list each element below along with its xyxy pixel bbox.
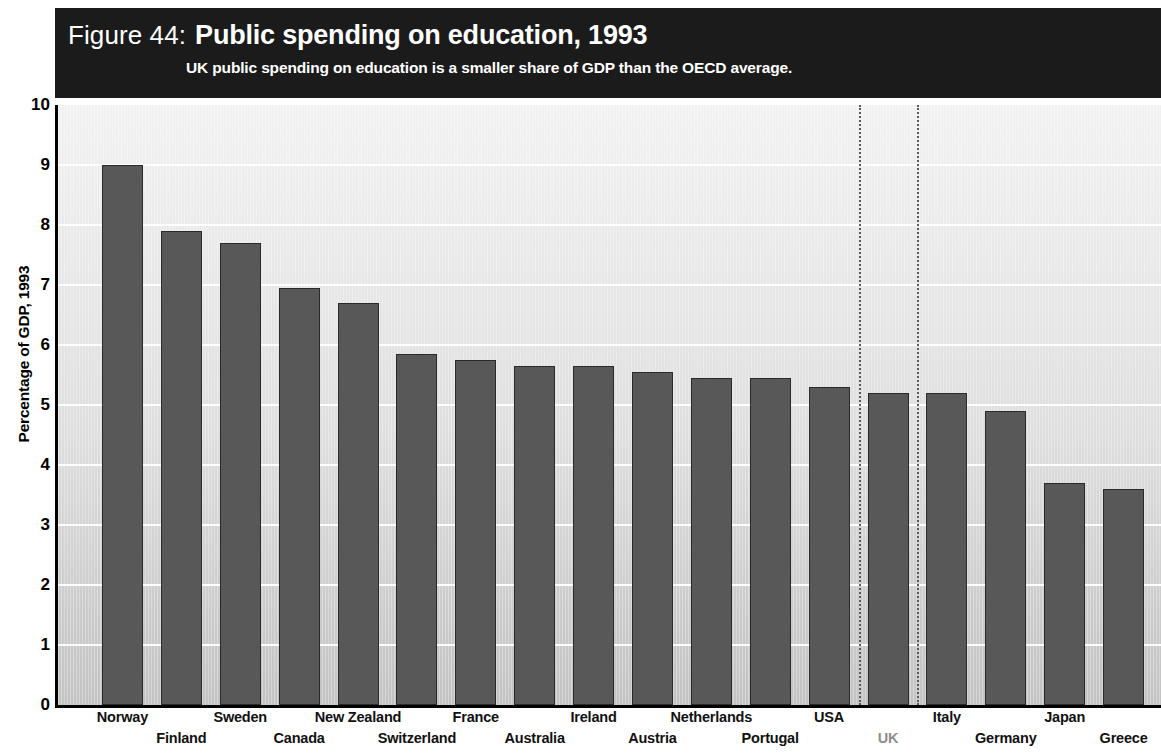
uk-marker-line-left: [859, 105, 861, 705]
bar-switzerland[interactable]: [396, 354, 437, 705]
x-tick-label-italy: Italy: [933, 709, 961, 725]
bar-japan[interactable]: [1044, 483, 1085, 705]
bar-italy[interactable]: [926, 393, 967, 705]
y-tick-label: 8: [4, 215, 50, 235]
figure-container: Figure 44:Public spending on education, …: [0, 0, 1161, 753]
gridline: [58, 164, 1161, 166]
x-tick-label-uk: UK: [878, 730, 899, 746]
x-tick-label-usa: USA: [814, 709, 844, 725]
bar-netherlands[interactable]: [691, 378, 732, 705]
x-tick-label-new-zealand: New Zealand: [315, 709, 401, 725]
bar-usa[interactable]: [809, 387, 850, 705]
x-tick-label-japan: Japan: [1044, 709, 1085, 725]
bar-portugal[interactable]: [750, 378, 791, 705]
x-tick-label-austria: Austria: [628, 730, 677, 746]
bar-uk[interactable]: [868, 393, 909, 705]
x-tick-label-greece: Greece: [1100, 730, 1148, 746]
x-tick-label-canada: Canada: [274, 730, 325, 746]
y-tick-label: 3: [4, 515, 50, 535]
y-tick-label: 2: [4, 575, 50, 595]
bar-france[interactable]: [455, 360, 496, 705]
x-tick-label-sweden: Sweden: [213, 709, 267, 725]
uk-marker-line-right: [917, 105, 919, 705]
x-tick-label-finland: Finland: [156, 730, 206, 746]
figure-subtitle: UK public spending on education is a sma…: [186, 59, 792, 77]
bar-greece[interactable]: [1103, 489, 1144, 705]
plot-area: [58, 105, 1161, 705]
x-tick-label-ireland: Ireland: [570, 709, 616, 725]
bar-finland[interactable]: [161, 231, 202, 705]
bar-germany[interactable]: [985, 411, 1026, 705]
x-tick-label-germany: Germany: [975, 730, 1036, 746]
x-tick-label-switzerland: Switzerland: [378, 730, 456, 746]
bar-austria[interactable]: [632, 372, 673, 705]
bar-canada[interactable]: [279, 288, 320, 705]
figure-number: Figure 44:: [68, 20, 186, 50]
bar-australia[interactable]: [514, 366, 555, 705]
x-tick-label-portugal: Portugal: [742, 730, 799, 746]
y-tick-label: 1: [4, 635, 50, 655]
figure-title: Public spending on education, 1993: [195, 20, 647, 50]
x-tick-label-norway: Norway: [97, 709, 148, 725]
x-axis-labels: NorwayFinlandSwedenCanadaNew ZealandSwit…: [0, 708, 1161, 753]
x-tick-label-netherlands: Netherlands: [671, 709, 753, 725]
bar-norway[interactable]: [102, 165, 143, 705]
x-tick-label-france: France: [453, 709, 499, 725]
bar-ireland[interactable]: [573, 366, 614, 705]
y-axis-title: Percentage of GDP, 1993: [15, 234, 33, 474]
x-tick-label-australia: Australia: [505, 730, 565, 746]
bar-sweden[interactable]: [220, 243, 261, 705]
gridline: [58, 224, 1161, 226]
y-tick-label: 10: [4, 95, 50, 115]
figure-header-title-line: Figure 44:Public spending on education, …: [68, 20, 647, 51]
figure-header-band: Figure 44:Public spending on education, …: [55, 8, 1161, 98]
y-tick-label: 9: [4, 155, 50, 175]
bar-new-zealand[interactable]: [338, 303, 379, 705]
